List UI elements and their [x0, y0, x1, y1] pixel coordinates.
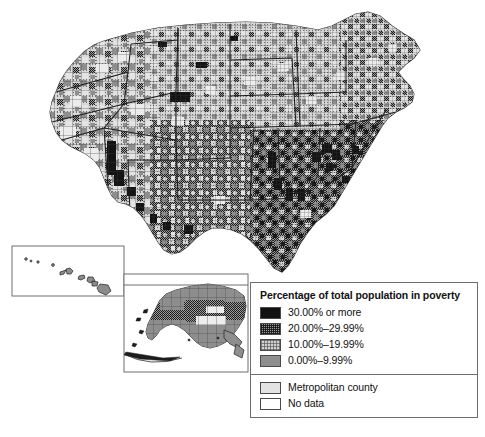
legend-row-20-29: 20.00%–29.99% [260, 322, 469, 335]
legend-row-10-19: 10.00%–19.99% [260, 338, 469, 351]
legend-swatch-metropolitan [260, 382, 281, 394]
legend-title: Percentage of total population in povert… [260, 289, 469, 301]
hawaii-inset [12, 246, 124, 296]
alaska-inset [124, 274, 248, 372]
legend-swatch-0-9 [260, 355, 281, 367]
lower-48-states [40, 10, 435, 275]
legend-swatch-20-29 [260, 323, 281, 335]
legend-row-0-9: 0.00%–9.99% [260, 354, 469, 367]
poverty-map-page: Percentage of total population in povert… [0, 0, 485, 437]
map-legend: Percentage of total population in povert… [250, 282, 478, 418]
county-class-fills [40, 10, 435, 275]
legend-row-30-plus: 30.00% or more [260, 306, 469, 319]
legend-row-metropolitan: Metropolitan county [260, 381, 469, 394]
legend-row-no-data: No data [260, 397, 469, 410]
legend-swatch-10-19 [260, 339, 281, 351]
legend-swatch-30-plus [260, 307, 281, 319]
legend-other-categories: Metropolitan county No data [251, 375, 477, 417]
legend-swatch-no-data [260, 398, 281, 410]
legend-poverty-classes: Percentage of total population in povert… [251, 283, 477, 375]
legend-label-20-29: 20.00%–29.99% [288, 322, 364, 335]
legend-label-no-data: No data [288, 397, 324, 410]
legend-label-0-9: 0.00%–9.99% [288, 354, 352, 367]
legend-label-10-19: 10.00%–19.99% [288, 338, 364, 351]
legend-label-30-plus: 30.00% or more [288, 306, 361, 319]
legend-label-metropolitan: Metropolitan county [288, 381, 378, 394]
